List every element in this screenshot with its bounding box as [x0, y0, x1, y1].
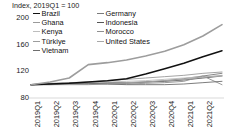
legend-item-morocco[interactable]: Morocco	[97, 27, 150, 36]
legend-item-united-states[interactable]: United States	[97, 37, 150, 46]
legend-column-2: GermanyIndonesiaMoroccoUnited States	[97, 9, 150, 46]
legend-item-türkiye[interactable]: Türkiye	[33, 37, 68, 46]
legend-item-label: Germany	[106, 9, 136, 18]
line-chart: Index, 2019Q1 = 100 80120160200 2019Q120…	[0, 0, 225, 139]
x-axis-tick-2019Q1: 2019Q1	[34, 101, 42, 127]
x-axis-tick-2020Q1: 2020Q1	[111, 101, 119, 127]
legend-swatch-icon	[33, 41, 40, 42]
legend-swatch-icon	[33, 50, 40, 51]
y-axis-tick-120: 120	[7, 67, 29, 75]
x-axis-tick-2020Q4: 2020Q4	[168, 101, 176, 127]
x-axis-tick-2020Q3: 2020Q3	[149, 101, 157, 127]
legend-swatch-icon	[33, 13, 40, 14]
legend-item-label: United States	[106, 37, 150, 46]
x-axis-tick-2019Q3: 2019Q3	[72, 101, 80, 127]
legend-item-germany[interactable]: Germany	[97, 9, 150, 18]
x-axis: 2019Q12019Q22019Q32019Q42020Q12020Q22020…	[31, 99, 222, 139]
y-axis-tick-200: 200	[7, 14, 29, 22]
x-axis-tick-2020Q2: 2020Q2	[130, 101, 138, 127]
legend-item-label: Ghana	[42, 18, 64, 27]
legend-item-label: Türkiye	[42, 37, 66, 46]
legend-swatch-icon	[97, 41, 104, 42]
legend-item-kenya[interactable]: Kenya	[33, 27, 68, 36]
legend-item-vietnam[interactable]: Vietnam	[33, 46, 68, 55]
legend-item-brazil[interactable]: Brazil	[33, 9, 68, 18]
y-axis: 80120160200	[0, 0, 29, 139]
legend-item-label: Indonesia	[106, 18, 138, 27]
legend-swatch-icon	[97, 22, 104, 23]
legend-swatch-icon	[33, 22, 40, 23]
y-axis-tick-80: 80	[7, 94, 29, 102]
legend-swatch-icon	[33, 31, 40, 32]
legend-swatch-icon	[97, 31, 104, 32]
y-axis-tick-160: 160	[7, 41, 29, 49]
legend-item-label: Kenya	[42, 27, 63, 36]
x-axis-tick-2021Q2: 2021Q2	[206, 101, 214, 127]
x-axis-tick-2021Q1: 2021Q1	[187, 101, 195, 127]
legend-item-label: Vietnam	[42, 46, 69, 55]
legend-item-ghana[interactable]: Ghana	[33, 18, 68, 27]
legend-item-label: Brazil	[42, 9, 60, 18]
legend-swatch-icon	[97, 13, 104, 14]
x-axis-tick-2019Q4: 2019Q4	[92, 101, 100, 127]
legend-item-indonesia[interactable]: Indonesia	[97, 18, 150, 27]
legend-column-1: BrazilGhanaKenyaTürkiyeVietnam	[33, 9, 68, 55]
legend-item-label: Morocco	[106, 27, 134, 36]
chart-legend: BrazilGhanaKenyaTürkiyeVietnam GermanyIn…	[33, 9, 218, 55]
x-axis-tick-2019Q2: 2019Q2	[53, 101, 61, 127]
